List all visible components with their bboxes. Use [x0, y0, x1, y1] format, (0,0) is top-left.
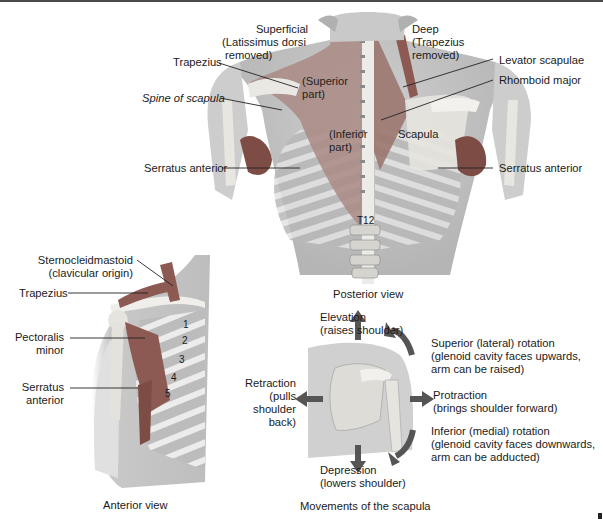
- inferior-part-line2: part): [329, 141, 368, 154]
- protraction-title: Protraction: [433, 389, 557, 402]
- retraction-line3: shoulder: [240, 403, 296, 416]
- depression-title: Depression: [320, 464, 406, 477]
- superior-rotation-line3: arm can be raised): [431, 363, 581, 376]
- superior-rotation-title: Superior (lateral) rotation: [431, 337, 581, 350]
- label-spine-of-scapula: Spine of scapula: [142, 92, 225, 105]
- label-rhomboid-major: Rhomboid major: [499, 74, 581, 87]
- label-trapezius-posterior: Trapezius: [173, 56, 222, 69]
- label-protraction: Protraction (brings shoulder forward): [433, 389, 557, 415]
- rib-number-2: 2: [182, 334, 188, 347]
- anterior-figure: [92, 255, 210, 488]
- elevation-note: (raises shoulder): [320, 324, 403, 337]
- label-inferior-rotation: Inferior (medial) rotation (glenoid cavi…: [431, 425, 595, 464]
- scm-line1: Sternocleidmastoid: [30, 254, 133, 267]
- label-retraction: Retraction (pulls shoulder back): [240, 377, 296, 429]
- rib-number-3: 3: [179, 353, 185, 366]
- rib-number-1: 1: [183, 318, 189, 331]
- label-t12: T12: [357, 214, 374, 227]
- scm-line2: (clavicular origin): [30, 267, 133, 280]
- label-scapula: Scapula: [398, 128, 438, 141]
- inferior-part-line1: (Inferior: [329, 128, 368, 141]
- label-deep: Deep (Trapezius removed): [412, 23, 464, 62]
- caption-movements: Movements of the scapula: [300, 500, 431, 513]
- superior-rotation-line2: (glenoid cavity faces upwards,: [431, 350, 581, 363]
- label-serratus-anterior-anterior: Serratus anterior: [10, 381, 64, 407]
- rib-number-5: 5: [165, 387, 171, 400]
- pectoralis-line2: minor: [10, 344, 64, 357]
- superior-part-line2: part): [302, 88, 348, 101]
- caption-posterior-view: Posterior view: [333, 288, 403, 301]
- pectoralis-line1: Pectoralis: [10, 331, 64, 344]
- label-depression: Depression (lowers shoulder): [320, 464, 406, 490]
- elevation-title: Elevation: [320, 311, 403, 324]
- deep-line1: Deep: [412, 23, 464, 36]
- label-levator-scapulae: Levator scapulae: [499, 54, 584, 67]
- inferior-rotation-line3: arm can be adducted): [431, 451, 595, 464]
- label-serratus-anterior-left: Serratus anterior: [144, 162, 227, 175]
- label-superficial: Superficial: [222, 23, 342, 36]
- label-inferior-part: (Inferior part): [329, 128, 368, 154]
- caption-anterior-view: Anterior view: [103, 499, 168, 512]
- label-trapezius-anterior: Trapezius: [19, 287, 68, 300]
- deep-line3: removed): [412, 49, 464, 62]
- retraction-line4: back): [240, 416, 296, 429]
- label-serratus-anterior-right: Serratus anterior: [499, 162, 582, 175]
- inferior-rotation-title: Inferior (medial) rotation: [431, 425, 595, 438]
- rib-number-4: 4: [171, 371, 177, 384]
- retraction-line2: (pulls: [240, 390, 296, 403]
- depression-note: (lowers shoulder): [320, 477, 406, 490]
- serratus-line2: anterior: [10, 394, 64, 407]
- label-sternocleidomastoid: Sternocleidmastoid (clavicular origin): [30, 254, 133, 280]
- superficial-note-line1: (Latissimus dorsi: [222, 36, 306, 49]
- retraction-title: Retraction: [240, 377, 296, 390]
- superficial-title: Superficial: [222, 23, 342, 36]
- label-superficial-note: (Latissimus dorsi removed): [222, 36, 306, 62]
- page-corner-mark: [598, 513, 602, 519]
- label-superior-rotation: Superior (lateral) rotation (glenoid cav…: [431, 337, 581, 376]
- deep-line2: (Trapezius: [412, 36, 464, 49]
- superior-part-line1: (Superior: [302, 75, 348, 88]
- label-elevation: Elevation (raises shoulder): [320, 311, 403, 337]
- label-pectoralis-minor: Pectoralis minor: [10, 331, 64, 357]
- serratus-line1: Serratus: [10, 381, 64, 394]
- inferior-rotation-line2: (glenoid cavity faces downwards,: [431, 438, 595, 451]
- label-superior-part: (Superior part): [302, 75, 348, 101]
- superficial-note-line2: removed): [222, 49, 306, 62]
- protraction-note: (brings shoulder forward): [433, 402, 557, 415]
